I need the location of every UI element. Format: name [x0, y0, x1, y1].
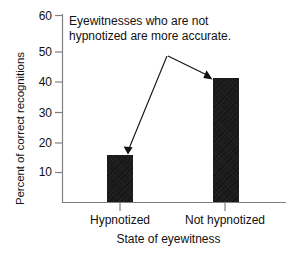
- bar-hypnotized: [107, 155, 133, 202]
- y-axis-ticks: [55, 16, 62, 173]
- annotation-line-1: Eyewitnesses who are not: [69, 14, 274, 29]
- bar-not-hypnotized: [213, 78, 239, 202]
- x-tick-label-not-hypnotized: Not hypnotized: [160, 214, 290, 227]
- annotation-line-2: hypnotized are more accurate.: [69, 29, 274, 44]
- x-axis-title-wrapper: State of eyewitness: [0, 232, 295, 246]
- bar-chart-figure: Percent of correct recognitions 60 50 40…: [0, 0, 295, 264]
- annotation-arrow: [128, 56, 209, 151]
- x-axis-ticks: [120, 202, 225, 211]
- x-axis-title: State of eyewitness: [116, 232, 220, 246]
- annotation-text: Eyewitnesses who are not hypnotized are …: [69, 14, 274, 43]
- arrowhead-left: [124, 147, 133, 155]
- arrowhead-right: [203, 70, 212, 79]
